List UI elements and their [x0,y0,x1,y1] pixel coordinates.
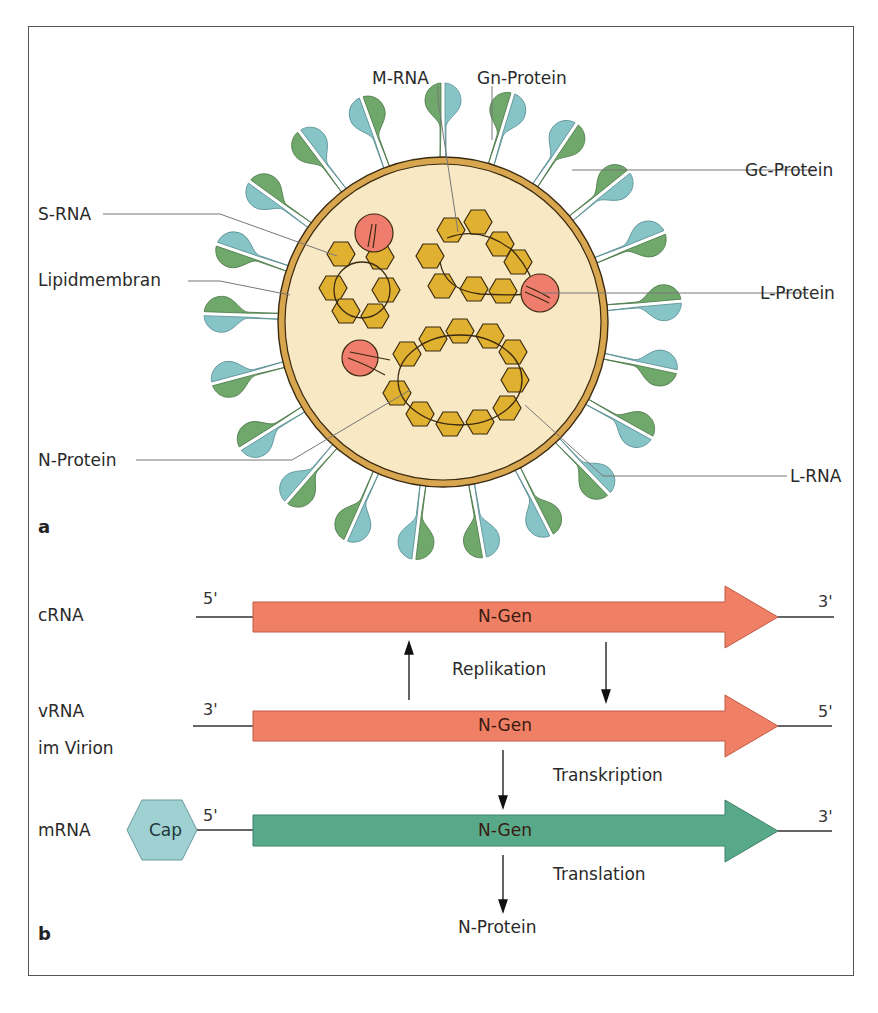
product-n-protein: N-Protein [458,919,536,936]
process-translation: Translation [553,866,646,883]
crna-left-end: 5' [203,591,218,607]
label-l-protein: L-Protein [760,285,835,302]
label-gc-protein: Gc-Protein [745,162,833,179]
panel-label-a: a [38,516,50,537]
label-gn-protein: Gn-Protein [477,70,567,87]
process-transkription: Transkription [553,767,663,784]
gene-label-vrna: N-Gen [478,717,532,734]
vrna-right-end: 5' [818,704,833,720]
gene-label-mrna: N-Gen [478,822,532,839]
row-label-vrna: vRNA [38,703,84,720]
vrna-left-end: 3' [203,702,218,718]
label-n-protein: N-Protein [38,452,116,469]
virion [103,83,815,561]
label-m-rna: M-RNA [372,70,429,87]
mrna-left-end: 5' [203,808,218,824]
label-lipidmembran: Lipidmembran [38,272,161,289]
cap-label: Cap [149,822,182,839]
l-protein-s [355,214,393,252]
l-protein-l [342,340,378,376]
panel-label-b: b [38,923,51,944]
gene-label-crna: N-Gen [478,608,532,625]
process-replikation: Replikation [452,661,546,678]
figure-graphics [0,0,878,1013]
label-l-rna: L-RNA [790,468,841,485]
crna-right-end: 3' [818,594,833,610]
label-s-rna: S-RNA [38,206,91,223]
row-label-crna: cRNA [38,607,84,624]
row-sublabel-vrna: im Virion [38,740,114,757]
row-label-mrna: mRNA [38,822,91,839]
mrna-right-end: 3' [818,809,833,825]
